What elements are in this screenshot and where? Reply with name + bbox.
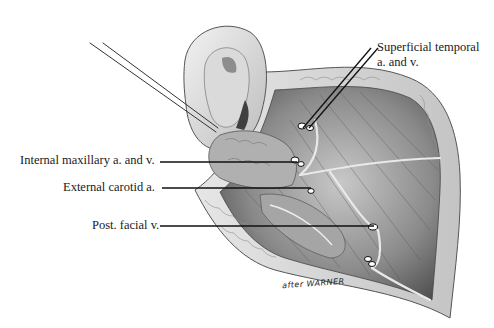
label-internal-maxillary: Internal maxillary a. and v.	[20, 153, 155, 168]
label-superficial-temporal-line1: Superficial temporal	[377, 40, 479, 55]
label-external-carotid: External carotid a.	[63, 180, 155, 195]
label-superficial-temporal: Superficial temporal a. and v.	[377, 40, 479, 70]
label-post-facial: Post. facial v.	[92, 218, 159, 233]
label-superficial-temporal-line2: a. and v.	[377, 55, 479, 70]
